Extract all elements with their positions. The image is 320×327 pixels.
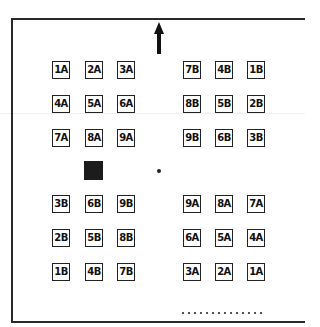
- seat-box: 9B: [183, 129, 201, 147]
- seat-box: 5B: [215, 95, 233, 113]
- seat-box: 6B: [215, 129, 233, 147]
- seat-box: 6B: [85, 195, 103, 213]
- seat-box: 7A: [247, 195, 265, 213]
- seat-box: 9B: [117, 195, 135, 213]
- seat-box: 4B: [215, 61, 233, 79]
- seat-box: 2B: [247, 95, 265, 113]
- seat-box: 3A: [117, 61, 135, 79]
- seat-box: 7B: [183, 61, 201, 79]
- seat-box: 1B: [247, 61, 265, 79]
- center-dot: [157, 169, 161, 173]
- seat-box: 8B: [183, 95, 201, 113]
- seat-box: 8A: [85, 129, 103, 147]
- seat-box: 4B: [85, 263, 103, 281]
- seat-box: 5B: [85, 229, 103, 247]
- seat-box: 6A: [183, 229, 201, 247]
- seat-box: 5A: [85, 95, 103, 113]
- seat-box: 1B: [52, 263, 70, 281]
- seat-box: 7A: [52, 129, 70, 147]
- dotted-line: [180, 312, 264, 314]
- seat-box: 6A: [117, 95, 135, 113]
- up-arrow-icon: [153, 22, 165, 54]
- seat-box: 8B: [117, 229, 135, 247]
- seat-box: 9A: [183, 195, 201, 213]
- seat-box: 5A: [215, 229, 233, 247]
- filled-square-marker: [84, 161, 103, 180]
- seat-box: 2A: [85, 61, 103, 79]
- seat-box: 3B: [52, 195, 70, 213]
- seat-box: 1A: [52, 61, 70, 79]
- seat-box: 2A: [215, 263, 233, 281]
- seat-box: 3B: [247, 129, 265, 147]
- seat-box: 4A: [52, 95, 70, 113]
- seat-box: 8A: [215, 195, 233, 213]
- seat-box: 1A: [247, 263, 265, 281]
- seat-box: 7B: [117, 263, 135, 281]
- seat-box: 4A: [247, 229, 265, 247]
- seat-box: 9A: [117, 129, 135, 147]
- seat-box: 2B: [52, 229, 70, 247]
- seat-box: 3A: [183, 263, 201, 281]
